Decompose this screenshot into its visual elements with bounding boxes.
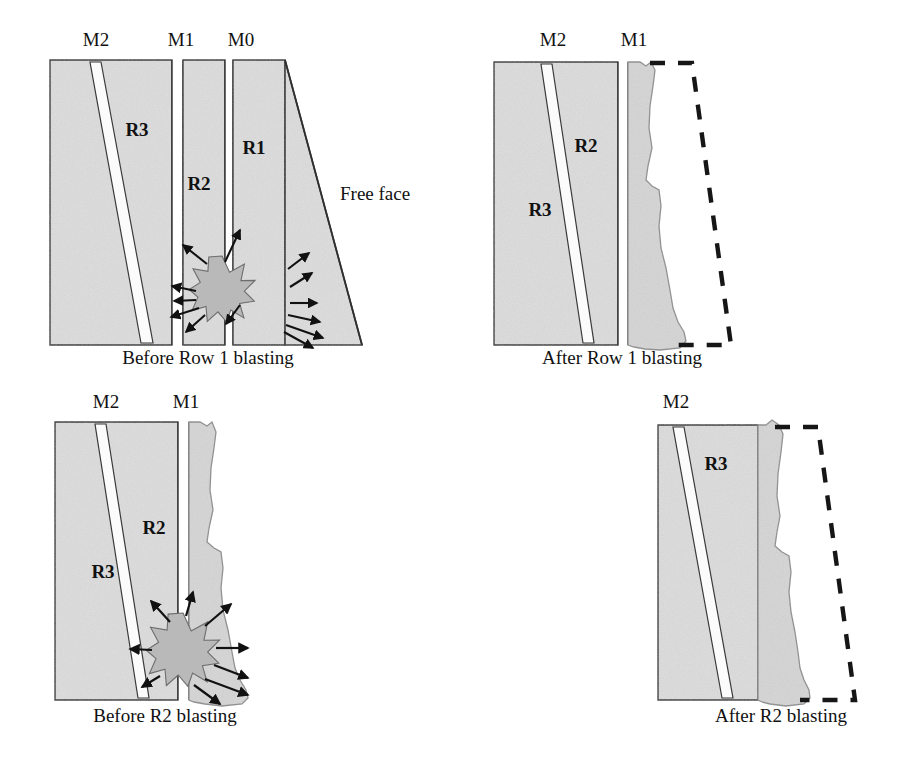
panel-before-r2: M2 M1 R2 R3 Before R2 blasting (55, 391, 248, 726)
row-label-r3: R3 (528, 199, 551, 220)
panel-after-r2: M2 R3 After R2 blasting (658, 391, 855, 726)
seam-label-m1: M1 (168, 29, 194, 50)
free-face-label: Free face (340, 183, 410, 204)
seam-label-m2: M2 (540, 29, 566, 50)
blasting-sequence-diagram: M2 M1 M0 R3 R2 R1 Free face Before Row 1… (0, 0, 897, 768)
seam-label-m2: M2 (83, 29, 109, 50)
seam-label-m1: M1 (173, 391, 199, 412)
row-label-r3: R3 (704, 453, 727, 474)
seam-m1 (618, 62, 628, 345)
figure-canvas: M2 M1 M0 R3 R2 R1 Free face Before Row 1… (0, 0, 897, 768)
muckpile-profile (758, 420, 810, 706)
row-label-r2: R2 (142, 517, 165, 538)
seam-label-m1: M1 (621, 29, 647, 50)
panel-before-row-1: M2 M1 M0 R3 R2 R1 Free face Before Row 1… (50, 29, 410, 368)
panel-after-row-1: M2 M1 R2 R3 After Row 1 blasting (494, 29, 731, 368)
panel-caption-after-r2: After R2 blasting (715, 705, 847, 726)
seam-m1 (172, 60, 183, 345)
row-label-r3: R3 (125, 119, 148, 140)
panel-caption-after-row-1: After Row 1 blasting (542, 347, 702, 368)
panel-caption-before-row-1: Before Row 1 blasting (122, 347, 294, 368)
row-label-r3: R3 (91, 561, 114, 582)
rock-block-r3 (50, 60, 172, 345)
seam-label-m2: M2 (93, 391, 119, 412)
seam-label-m0: M0 (228, 29, 254, 50)
seam-label-m2: M2 (663, 391, 689, 412)
row-label-r2: R2 (187, 173, 210, 194)
row-label-r1: R1 (242, 137, 265, 158)
panel-caption-before-r2: Before R2 blasting (93, 705, 237, 726)
muckpile-profile (628, 62, 686, 350)
row-label-r2: R2 (574, 135, 597, 156)
